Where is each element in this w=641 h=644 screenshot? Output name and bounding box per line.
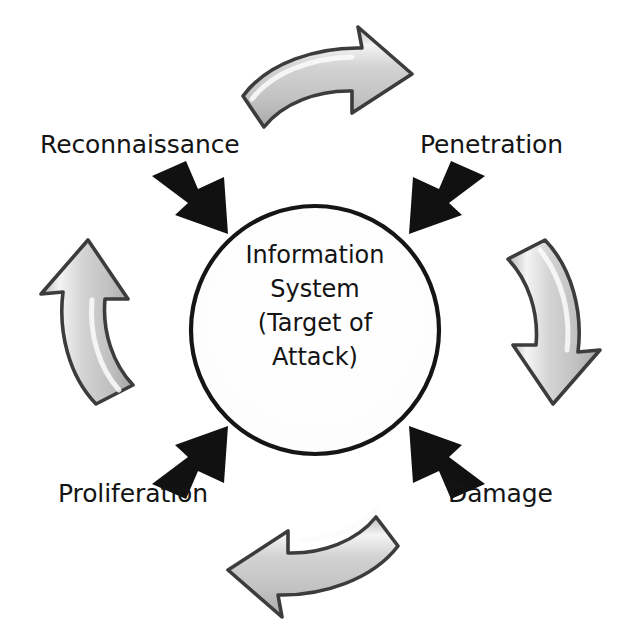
center-text-line-3: (Target of	[190, 306, 440, 340]
center-circle-text: Information System (Target of Attack)	[190, 238, 440, 374]
cycle-arrow-bottom	[228, 508, 398, 617]
stage-label-penetration: Penetration	[420, 130, 563, 159]
center-text-line-4: Attack)	[190, 340, 440, 374]
arrow-reconnaissance-inward	[152, 161, 228, 234]
cycle-arrow-right	[508, 240, 600, 404]
center-text-line-2: System	[190, 272, 440, 306]
arrow-penetration-inward	[409, 161, 485, 234]
diagram-canvas: Reconnaissance Penetration Damage Prolif…	[0, 0, 641, 644]
cycle-arrow-top	[243, 27, 412, 127]
stage-label-damage: Damage	[448, 479, 553, 508]
stage-label-reconnaissance: Reconnaissance	[40, 130, 240, 159]
center-text-line-1: Information	[190, 238, 440, 272]
stage-label-proliferation: Proliferation	[58, 479, 208, 508]
cycle-arrow-left	[41, 240, 133, 404]
